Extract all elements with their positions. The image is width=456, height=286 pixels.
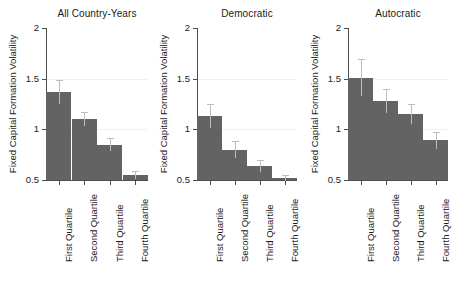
error-bar-cap xyxy=(207,104,214,105)
error-bar-cap xyxy=(232,141,239,142)
error-bar-cap xyxy=(81,112,88,113)
error-bar xyxy=(361,59,362,96)
error-bar xyxy=(436,132,437,149)
x-tick-mark xyxy=(386,181,387,185)
x-tick-label: Second Quartile xyxy=(88,194,99,262)
x-tick-mark xyxy=(411,181,412,185)
x-tick-mark xyxy=(110,181,111,185)
error-bar-cap xyxy=(433,132,440,133)
error-bar-cap xyxy=(282,175,289,176)
x-tick-mark xyxy=(436,181,437,185)
x-tick-label: Fourth Quartile xyxy=(139,199,150,262)
y-tick-label: 0.5 xyxy=(6,175,39,185)
x-tick-mark xyxy=(84,181,85,185)
chart-panel-2: DemocraticFixed Capital Formation Volati… xyxy=(150,0,300,286)
y-tick-mark xyxy=(42,28,46,29)
x-tick-mark xyxy=(235,181,236,185)
error-bar xyxy=(411,104,412,124)
y-tick-label: 0.5 xyxy=(157,175,190,185)
error-bar-cap xyxy=(383,89,390,90)
error-bar-cap xyxy=(358,59,365,60)
y-tick-label: 1.5 xyxy=(6,74,39,84)
y-tick-label: 1 xyxy=(157,124,190,134)
y-tick-label: 2 xyxy=(308,23,341,33)
x-axis-spine xyxy=(348,180,448,181)
y-tick-label: 2 xyxy=(157,23,190,33)
gridline xyxy=(198,79,297,80)
chart-panel-1: All Country-YearsFixed Capital Formation… xyxy=(0,0,158,286)
x-axis-spine xyxy=(197,180,297,181)
error-bar xyxy=(386,89,387,113)
x-tick-label: First Quartile xyxy=(63,208,74,262)
x-tick-label: Second Quartile xyxy=(239,194,250,262)
x-tick-mark xyxy=(260,181,261,185)
y-tick-label: 0.5 xyxy=(308,175,341,185)
y-tick-label: 1 xyxy=(6,124,39,134)
x-tick-label: Fourth Quartile xyxy=(440,199,451,262)
error-bar xyxy=(210,104,211,128)
error-bar-cap xyxy=(408,104,415,105)
error-bar xyxy=(84,112,85,126)
error-bar-cap xyxy=(132,171,139,172)
error-bar-cap xyxy=(56,80,63,81)
y-tick-label: 1 xyxy=(308,124,341,134)
x-tick-mark xyxy=(210,181,211,185)
error-bar-cap xyxy=(107,138,114,139)
x-tick-label: Second Quartile xyxy=(390,194,401,262)
y-tick-label: 1.5 xyxy=(157,74,190,84)
y-tick-mark xyxy=(193,28,197,29)
error-bar xyxy=(235,141,236,158)
x-axis-spine xyxy=(46,180,148,181)
panel-title: Autocratic xyxy=(302,8,456,20)
y-axis-label: Fixed Capital Formation Volatility xyxy=(6,28,20,180)
y-tick-mark xyxy=(42,180,46,181)
x-tick-mark xyxy=(361,181,362,185)
x-tick-mark xyxy=(135,181,136,185)
error-bar xyxy=(260,160,261,172)
chart-panel-3: AutocraticFixed Capital Formation Volati… xyxy=(300,0,449,286)
y-axis-label: Fixed Capital Formation Volatility xyxy=(157,28,171,180)
x-tick-label: Third Quartile xyxy=(415,204,426,262)
y-tick-mark xyxy=(193,180,197,181)
x-tick-label: First Quartile xyxy=(365,208,376,262)
y-axis-label: Fixed Capital Formation Volatility xyxy=(308,28,322,180)
error-bar xyxy=(110,138,111,151)
y-tick-mark xyxy=(42,79,46,80)
y-tick-mark xyxy=(193,79,197,80)
y-tick-label: 1.5 xyxy=(308,74,341,84)
x-tick-label: First Quartile xyxy=(214,208,225,262)
y-tick-mark xyxy=(344,28,348,29)
error-bar-cap xyxy=(257,160,264,161)
y-tick-label: 2 xyxy=(6,23,39,33)
x-tick-label: Third Quartile xyxy=(264,204,275,262)
bar xyxy=(72,119,97,180)
error-bar xyxy=(59,80,60,104)
x-tick-label: Fourth Quartile xyxy=(289,199,300,262)
error-bar xyxy=(135,171,136,179)
bar xyxy=(46,92,71,180)
x-tick-mark xyxy=(59,181,60,185)
x-tick-mark xyxy=(285,181,286,185)
y-tick-mark xyxy=(344,180,348,181)
x-tick-label: Third Quartile xyxy=(114,204,125,262)
